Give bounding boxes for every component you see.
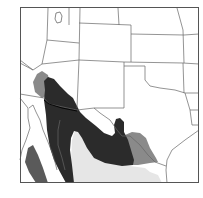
map-canvas — [0, 0, 203, 198]
great-salt-lake — [55, 12, 62, 23]
range-map — [0, 0, 203, 198]
